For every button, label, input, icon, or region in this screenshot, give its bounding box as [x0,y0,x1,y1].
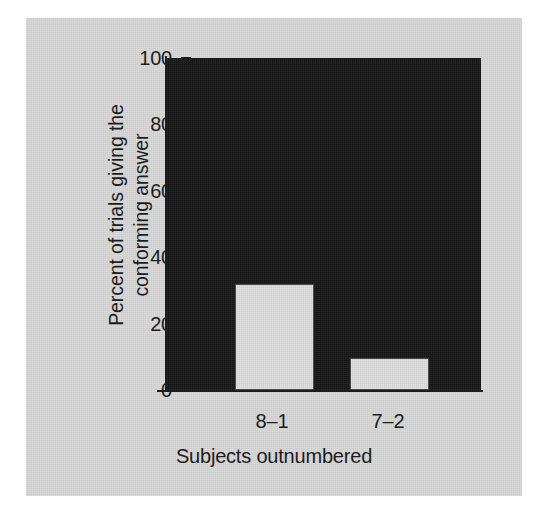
x-axis-spine [157,390,483,392]
x-tick-label-8-1: 8–1 [232,410,312,432]
x-tick-label-7-2: 7–2 [348,410,428,432]
y-tick-label-group: 100 80 60 40 20 0 [114,18,172,496]
bar-8-1[interactable] [235,284,314,390]
figure-panel: Percent of trials giving theconforming a… [26,18,522,496]
figure-root: Percent of trials giving theconforming a… [0,0,543,513]
plot-area [167,58,481,390]
x-axis-title: Subjects outnumbered [26,444,522,468]
y-axis-spine [165,56,167,392]
bar-7-2[interactable] [350,358,429,390]
